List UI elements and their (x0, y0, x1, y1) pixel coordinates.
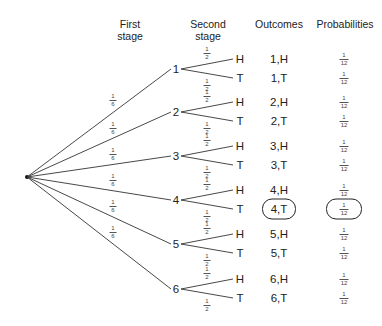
outcome-label: 5,T (271, 247, 288, 259)
first-stage-probability: 16 (110, 93, 117, 107)
outcome-probability: 112 (340, 114, 349, 128)
first-stage-branch (27, 112, 171, 177)
first-stage-node: 2 (173, 106, 179, 118)
second-stage-probability: 12 (204, 89, 211, 103)
second-stage-branch (181, 244, 233, 253)
second-stage-outcome: H (236, 184, 244, 196)
first-stage-branch (27, 156, 171, 177)
outcome-probability: 112 (340, 52, 349, 66)
outcome-label: 2,T (271, 115, 288, 127)
second-stage-outcome: H (236, 228, 244, 240)
outcome-label: 1,H (270, 53, 288, 65)
first-stage-probability: 16 (110, 225, 117, 239)
first-stage-branch (27, 177, 171, 244)
second-stage-outcome: T (236, 247, 243, 259)
second-stage-outcome: H (236, 96, 244, 108)
second-stage-branch (181, 146, 233, 156)
second-stage-outcome: H (236, 140, 244, 152)
first-stage-node: 4 (173, 194, 179, 206)
second-stage-branch (181, 102, 233, 112)
outcome-probability: 112 (340, 139, 349, 153)
header-first-stage: First stage (105, 18, 155, 42)
outcome-probability: 112 (340, 95, 349, 109)
second-stage-branch (181, 200, 233, 209)
first-stage-branch (27, 177, 171, 289)
outcome-label: 5,H (270, 228, 288, 240)
second-stage-outcome: T (236, 115, 243, 127)
second-stage-probability: 12 (204, 221, 211, 235)
first-stage-branch (27, 177, 171, 200)
second-stage-probability: 12 (204, 253, 211, 267)
outcome-label: 3,H (270, 140, 288, 152)
second-stage-branch (181, 190, 233, 200)
first-stage-node: 3 (173, 150, 179, 162)
highlight-oval-probability (326, 199, 362, 220)
second-stage-probability: 12 (204, 177, 211, 191)
outcome-probability: 112 (340, 71, 349, 85)
tree-diagram: First stage Second stage Outcomes Probab… (0, 0, 382, 326)
second-stage-branch (181, 59, 233, 69)
outcome-label: 2,H (270, 96, 288, 108)
outcome-label: 3,T (271, 159, 288, 171)
tree-branches (0, 0, 382, 326)
outcome-probability: 112 (340, 227, 349, 241)
first-stage-probability: 16 (110, 147, 117, 161)
outcome-label: 6,T (271, 292, 288, 304)
second-stage-outcome: T (236, 292, 243, 304)
outcome-probability: 112 (340, 183, 349, 197)
first-stage-probability: 16 (110, 199, 117, 213)
second-stage-outcome: H (236, 53, 244, 65)
second-stage-branch (181, 112, 233, 121)
second-stage-outcome: T (236, 203, 243, 215)
first-stage-probability: 16 (110, 173, 117, 187)
first-stage-branch (27, 69, 171, 177)
outcome-probability: 112 (340, 291, 349, 305)
first-stage-probability: 16 (110, 121, 117, 135)
outcome-label: 6,H (270, 273, 288, 285)
outcome-probability: 112 (340, 246, 349, 260)
second-stage-branch (181, 234, 233, 244)
second-stage-probability: 12 (204, 266, 211, 280)
header-second-stage: Second stage (183, 18, 233, 42)
first-stage-node: 1 (173, 63, 179, 75)
second-stage-probability: 12 (204, 298, 211, 312)
header-outcomes: Outcomes (249, 18, 309, 30)
outcome-label: 1,T (271, 72, 288, 84)
second-stage-outcome: H (236, 273, 244, 285)
outcome-probability: 112 (340, 158, 349, 172)
outcome-probability: 112 (340, 272, 349, 286)
first-stage-node: 5 (173, 238, 179, 250)
second-stage-branch (181, 69, 233, 78)
second-stage-outcome: T (236, 72, 243, 84)
second-stage-branch (181, 289, 233, 298)
second-stage-probability: 12 (204, 46, 211, 60)
second-stage-branch (181, 156, 233, 165)
highlight-oval-outcome (262, 199, 296, 220)
outcome-label: 4,H (270, 184, 288, 196)
header-probabilities: Probabilities (308, 18, 382, 30)
second-stage-probability: 12 (204, 133, 211, 147)
second-stage-branch (181, 279, 233, 289)
second-stage-outcome: T (236, 159, 243, 171)
first-stage-node: 6 (173, 283, 179, 295)
